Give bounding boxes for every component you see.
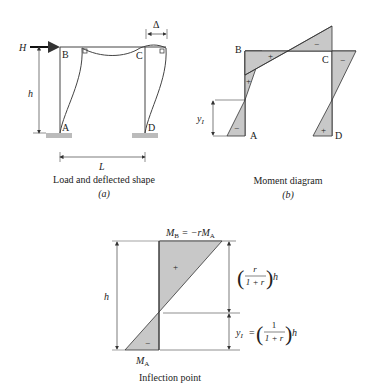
sign-cd-top: − <box>340 55 345 65</box>
column-ab-deflected <box>60 48 82 133</box>
caption-c: Inflection point <box>139 372 201 383</box>
svg-text:1 + r: 1 + r <box>246 277 265 287</box>
moment-negative-region <box>125 312 159 350</box>
svg-text:=: = <box>249 327 255 338</box>
support-d <box>132 133 158 138</box>
joint-b-label: B <box>235 44 242 55</box>
panel-c: + − h MB = −rMA MA ( r 1 + r ) h yI = ( … <box>104 227 297 383</box>
svg-text:(: ( <box>237 265 244 290</box>
joint-d-label: D <box>148 122 155 133</box>
height-label: h <box>28 88 33 99</box>
svg-text:h: h <box>292 327 297 338</box>
caption-a: Load and deflected shape <box>53 174 155 185</box>
svg-text:yI: yI <box>235 327 243 340</box>
h-label: h <box>104 291 109 302</box>
sign-cd-bottom: + <box>321 125 326 135</box>
joint-a-label: A <box>250 130 258 141</box>
span-label: L <box>98 161 105 172</box>
sign-ab-bottom: − <box>234 123 239 133</box>
mb-label: MB = −rMA <box>165 227 215 240</box>
column-cd-deflected <box>145 48 166 133</box>
load-label: H <box>18 42 27 53</box>
svg-text:(: ( <box>256 321 263 346</box>
svg-text:1: 1 <box>272 320 277 330</box>
sign-positive: + <box>173 262 178 272</box>
panel-b: + − + − − + B C A D yI Moment diagram (b… <box>196 26 356 201</box>
svg-text:r: r <box>253 264 257 274</box>
sublabel-b: (b) <box>282 189 294 201</box>
upper-formula: ( r 1 + r ) h <box>237 264 278 290</box>
sign-beam-right: − <box>314 39 319 49</box>
joint-c-label: C <box>322 54 329 65</box>
moment-positive-region <box>159 241 222 312</box>
sign-negative: − <box>145 338 150 348</box>
joint-a-label: A <box>62 122 70 133</box>
joint-c-label: C <box>136 50 143 61</box>
rigid-joint-c <box>160 49 164 53</box>
caption-b: Moment diagram <box>253 175 322 186</box>
sign-ab-top: + <box>246 76 251 86</box>
joint-b-label: B <box>62 49 69 60</box>
figure: H h L Δ B C A D Load and deflected shape… <box>0 0 378 387</box>
svg-text:1 + r: 1 + r <box>265 333 284 343</box>
svg-text:h: h <box>273 271 278 282</box>
ma-label: MA <box>135 355 149 368</box>
lower-formula: yI = ( 1 1 + r ) h <box>235 320 297 346</box>
sign-beam-left: + <box>268 51 273 61</box>
support-a <box>46 133 72 138</box>
sublabel-a: (a) <box>98 188 110 200</box>
yi-label: yI <box>196 113 204 126</box>
panel-a: H h L Δ B C A D Load and deflected shape… <box>18 19 167 200</box>
joint-d-label: D <box>335 130 342 141</box>
drift-label: Δ <box>153 19 160 30</box>
